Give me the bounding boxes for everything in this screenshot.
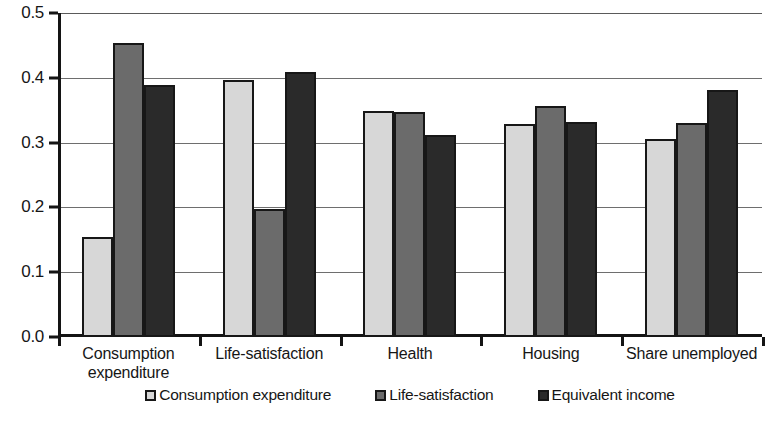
legend-swatch-icon [145,390,156,401]
scan-bleed-text [0,410,776,421]
legend-item[interactable]: Equivalent income [538,386,675,404]
bar-chart-figure: 0.00.10.20.30.40.5 Consumption expenditu… [0,0,776,421]
bar [82,237,113,337]
x-axis-category-label: Health [340,344,481,382]
y-axis-tick-mark [49,271,58,274]
chart-legend: Consumption expenditureLife-satisfaction… [58,386,762,404]
y-axis-tick-mark [49,336,58,339]
bar-group [480,13,621,337]
bar [363,111,394,337]
y-axis-tick-label: 0.3 [21,133,44,153]
y-axis-tick-label: 0.2 [21,197,44,217]
y-axis-tick-label: 0.5 [21,3,44,23]
x-axis-category-label: Life-satisfaction [199,344,340,382]
bar-group [340,13,481,337]
y-axis-tick-label: 0.0 [21,327,44,347]
bar-group [199,13,340,337]
y-axis-tick-mark [49,206,58,209]
bar [223,80,254,337]
y-axis-tick-label: 0.4 [21,68,44,88]
legend-item[interactable]: Life-satisfaction [375,386,493,404]
y-axis-tick-label: 0.1 [21,262,44,282]
x-axis-category-label: Housing [480,344,621,382]
legend-swatch-icon [375,390,386,401]
bar [394,112,425,338]
bar [254,209,285,337]
bar [285,72,316,337]
bar [566,122,597,337]
bar [707,90,738,337]
x-axis-labels: Consumption expenditureLife-satisfaction… [58,344,762,382]
legend-swatch-icon [538,390,549,401]
legend-item-label: Consumption expenditure [159,386,331,404]
bar [535,106,566,337]
y-axis: 0.00.10.20.30.40.5 [0,0,58,350]
bar-group [621,13,762,337]
legend-item[interactable]: Consumption expenditure [145,386,331,404]
bar [144,85,175,337]
legend-item-label: Equivalent income [552,386,675,404]
y-axis-tick-mark [49,76,58,79]
bar-group [58,13,199,337]
bar [676,123,707,337]
x-axis-category-label: Share unemployed [621,344,762,382]
y-axis-tick-mark [49,141,58,144]
bar-groups [58,13,762,337]
bar [504,124,535,337]
y-axis-tick-mark [49,12,58,15]
bar [645,139,676,337]
legend-item-label: Life-satisfaction [389,386,493,404]
x-axis-tick-mark [762,337,765,346]
x-axis-category-label: Consumption expenditure [58,344,199,382]
bar [425,135,456,337]
bar [113,43,144,337]
